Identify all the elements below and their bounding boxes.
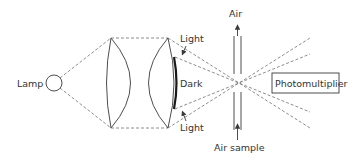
condenser-lens-2 (149, 38, 175, 128)
air-in-label: Air sample (214, 142, 265, 153)
ray-lamp-bottom (60, 88, 111, 128)
lamp-label: Lamp (17, 78, 43, 89)
light-top-label: Light (180, 33, 204, 44)
light-bottom-label: Light (180, 122, 204, 133)
optical-diagram: Lamp Light Light Dark Air Air sample Pho (0, 0, 359, 162)
lamp-icon (46, 75, 62, 91)
photomultiplier-label: Photomultiplier (275, 78, 348, 89)
air-out-label: Air (229, 8, 242, 19)
ray-lamp-top (60, 38, 111, 78)
condenser-lens-1 (107, 38, 131, 128)
dark-label: Dark (180, 78, 203, 89)
air-sample-tube (234, 36, 241, 130)
